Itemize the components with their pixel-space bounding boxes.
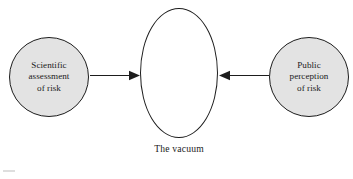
arrow-right-icon: [90, 70, 140, 81]
node-the-vacuum: [140, 8, 218, 138]
arrow-scientific-to-vacuum: [90, 70, 140, 81]
scan-artifact-mark: [3, 170, 15, 172]
node-scientific-assessment-label: Scientific assessment of risk: [25, 60, 74, 94]
node-public-perception-label: Public perception of risk: [286, 60, 333, 94]
vacuum-caption: The vacuum: [119, 143, 239, 155]
node-public-perception: Public perception of risk: [269, 37, 349, 117]
diagram-canvas: Scientific assessment of risk Public per…: [0, 0, 353, 179]
node-scientific-assessment: Scientific assessment of risk: [9, 37, 89, 117]
arrow-left-icon: [218, 70, 269, 81]
arrow-public-to-vacuum: [218, 70, 269, 81]
